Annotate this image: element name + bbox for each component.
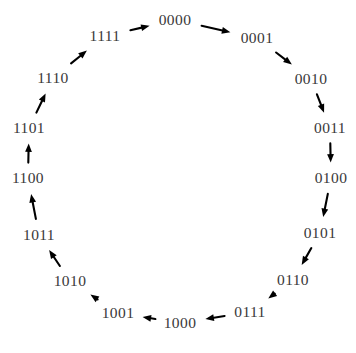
node-label-0010: 0010 bbox=[295, 71, 328, 87]
arrow-0000-to-0001 bbox=[202, 26, 231, 34]
node-label-0110: 0110 bbox=[277, 272, 309, 288]
node-label-0000: 0000 bbox=[159, 12, 192, 28]
arrow-1110-to-1111 bbox=[71, 51, 87, 64]
binary-cycle-diagram: 0000000100100011010001010110011110001001… bbox=[0, 0, 356, 353]
arrow-1010-to-1011 bbox=[49, 250, 60, 266]
arrow-0001-to-0010 bbox=[276, 53, 292, 65]
arrow-1000-to-1001 bbox=[143, 315, 156, 322]
node-label-0100: 0100 bbox=[315, 170, 348, 186]
arrow-0111-to-1000 bbox=[205, 314, 224, 321]
arrow-0101-to-0110 bbox=[302, 248, 312, 265]
node-label-0011: 0011 bbox=[314, 120, 346, 136]
arrow-layer bbox=[0, 0, 356, 353]
node-label-0111: 0111 bbox=[234, 304, 265, 320]
arrow-0010-to-0011 bbox=[317, 94, 324, 112]
node-label-1100: 1100 bbox=[12, 170, 44, 186]
arrow-1101-to-1110 bbox=[36, 93, 45, 112]
node-label-1000: 1000 bbox=[164, 315, 197, 331]
node-label-1111: 1111 bbox=[90, 28, 121, 44]
arrow-1001-to-1010 bbox=[90, 295, 99, 303]
node-label-1110: 1110 bbox=[37, 70, 68, 86]
node-label-1001: 1001 bbox=[102, 305, 135, 321]
arrow-1100-to-1101 bbox=[25, 143, 32, 162]
arrow-1111-to-0000 bbox=[130, 24, 149, 31]
arrow-0011-to-0100 bbox=[327, 143, 334, 162]
node-label-0101: 0101 bbox=[304, 225, 337, 241]
node-label-1010: 1010 bbox=[54, 273, 87, 289]
node-label-1011: 1011 bbox=[23, 227, 55, 243]
arrow-0100-to-0101 bbox=[322, 194, 329, 217]
arrow-0110-to-0111 bbox=[268, 291, 277, 299]
arrow-1011-to-1100 bbox=[29, 194, 36, 219]
node-label-1101: 1101 bbox=[13, 120, 45, 136]
node-label-0001: 0001 bbox=[241, 30, 274, 46]
